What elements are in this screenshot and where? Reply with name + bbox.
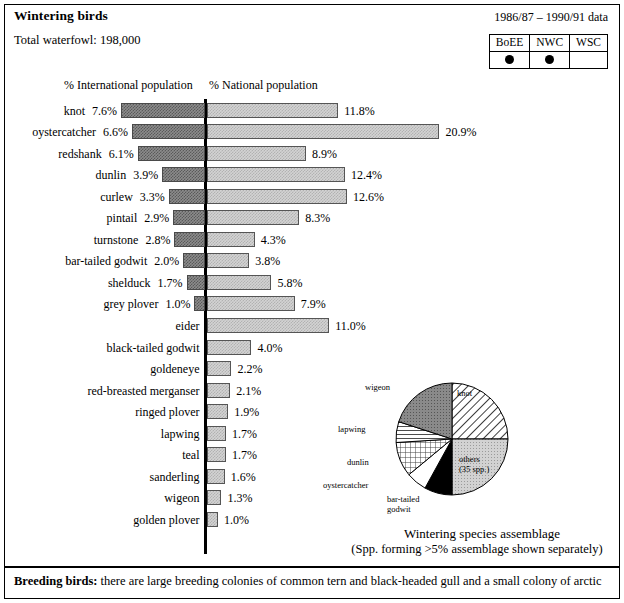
bar-international bbox=[138, 146, 206, 161]
chart-row: 2.8%turnstone4.3% bbox=[0, 229, 624, 251]
species-label: red-breasted merganser bbox=[87, 383, 199, 399]
pie-slice-label: oystercatcher bbox=[323, 480, 368, 490]
footer-note: Breeding birds: there are large breeding… bbox=[14, 574, 614, 589]
species-label: teal bbox=[182, 447, 199, 463]
species-label: lapwing bbox=[161, 426, 200, 442]
bar-international bbox=[174, 232, 205, 247]
chart-row: 3.9%dunlin12.4% bbox=[0, 164, 624, 186]
chart-row: teal1.7% bbox=[0, 444, 624, 466]
chart-row: black-tailed godwit4.0% bbox=[0, 337, 624, 359]
chart-row: ringed plover1.9% bbox=[0, 401, 624, 423]
species-label: grey plover bbox=[103, 296, 158, 312]
value-label-international: 7.6% bbox=[92, 103, 117, 119]
value-label-international: 2.0% bbox=[154, 253, 179, 269]
diverging-bar-chart: 7.6%knot11.8%6.6%oystercatcher20.9%6.1%r… bbox=[0, 0, 624, 603]
value-label-international: 3.3% bbox=[140, 189, 165, 205]
value-label-international: 6.1% bbox=[109, 146, 134, 162]
value-label-national: 12.6% bbox=[353, 189, 384, 205]
chart-row: 7.6%knot11.8% bbox=[0, 100, 624, 122]
bar-national bbox=[207, 124, 439, 139]
bar-national bbox=[207, 426, 226, 441]
pie-slice-label: dunlin bbox=[347, 457, 369, 467]
bar-international bbox=[194, 296, 205, 311]
pie-chart-subtitle: (Spp. forming >5% assemblage shown separ… bbox=[330, 542, 624, 557]
bar-national bbox=[207, 404, 228, 419]
species-label: dunlin bbox=[95, 167, 126, 183]
value-label-national: 11.0% bbox=[335, 318, 366, 334]
bar-international bbox=[187, 275, 206, 290]
bar-national bbox=[207, 361, 231, 376]
species-label: shelduck bbox=[108, 275, 151, 291]
pie-chart-title: Wintering species assemblage bbox=[340, 526, 624, 542]
bar-national bbox=[207, 469, 225, 484]
chart-row: 2.9%pintail8.3% bbox=[0, 207, 624, 229]
value-label-national: 4.3% bbox=[261, 232, 286, 248]
bar-international bbox=[169, 189, 206, 204]
bar-national bbox=[207, 146, 306, 161]
value-label-national: 8.3% bbox=[305, 210, 330, 226]
value-label-national: 12.4% bbox=[351, 167, 382, 183]
value-label-national: 1.9% bbox=[234, 404, 259, 420]
chart-row: 3.3%curlew12.6% bbox=[0, 186, 624, 208]
species-label: wigeon bbox=[164, 490, 199, 506]
species-label: goldeneye bbox=[150, 361, 199, 377]
value-label-national: 4.0% bbox=[257, 340, 282, 356]
chart-row: eider11.0% bbox=[0, 315, 624, 337]
bar-national bbox=[207, 490, 221, 505]
value-label-international: 1.0% bbox=[165, 296, 190, 312]
bar-national bbox=[207, 275, 271, 290]
species-label: golden plover bbox=[133, 512, 199, 528]
chart-row: 1.0%grey plover7.9% bbox=[0, 293, 624, 315]
bar-national bbox=[207, 103, 338, 118]
pie-chart: knotothers(35 spp.)bar-tailedgodwitoyste… bbox=[395, 382, 509, 496]
species-label: curlew bbox=[100, 189, 133, 205]
bar-national bbox=[207, 210, 299, 225]
page-root: Wintering birds 1986/87 – 1990/91 data T… bbox=[0, 0, 624, 603]
value-label-international: 2.9% bbox=[144, 210, 169, 226]
species-label: knot bbox=[64, 103, 85, 119]
species-label: oystercatcher bbox=[32, 124, 96, 140]
chart-row: 6.6%oystercatcher20.9% bbox=[0, 121, 624, 143]
bar-international bbox=[162, 167, 205, 182]
bar-international bbox=[183, 253, 205, 268]
chart-row: wigeon1.3% bbox=[0, 487, 624, 509]
chart-row: 6.1%redshank8.9% bbox=[0, 143, 624, 165]
bar-international bbox=[121, 103, 206, 118]
footer-text: there are large breeding colonies of com… bbox=[97, 574, 601, 588]
bar-national bbox=[207, 447, 226, 462]
value-label-national: 3.8% bbox=[255, 253, 280, 269]
pie-slice-label: wigeon bbox=[365, 382, 390, 392]
pie-slice-label: knot bbox=[457, 388, 472, 398]
chart-row: 2.0%bar-tailed godwit3.8% bbox=[0, 250, 624, 272]
species-label: pintail bbox=[107, 210, 138, 226]
species-label: redshank bbox=[58, 146, 101, 162]
value-label-national: 2.1% bbox=[236, 383, 261, 399]
value-label-international: 2.8% bbox=[145, 232, 170, 248]
bar-national bbox=[207, 512, 218, 527]
chart-row: 1.7%shelduck5.8% bbox=[0, 272, 624, 294]
footer-lead: Breeding birds: bbox=[14, 574, 97, 588]
value-label-national: 7.9% bbox=[301, 296, 326, 312]
bar-national bbox=[207, 340, 251, 355]
value-label-national: 2.2% bbox=[237, 361, 262, 377]
pie-slice-label: others(35 spp.) bbox=[459, 454, 489, 474]
value-label-international: 6.6% bbox=[103, 124, 128, 140]
value-label-national: 1.7% bbox=[232, 447, 257, 463]
bar-international bbox=[173, 210, 205, 225]
pie-slice-label: bar-tailedgodwit bbox=[387, 494, 419, 514]
value-label-national: 5.8% bbox=[277, 275, 302, 291]
species-label: ringed plover bbox=[135, 404, 199, 420]
species-label: bar-tailed godwit bbox=[65, 253, 147, 269]
value-label-national: 1.6% bbox=[231, 469, 256, 485]
bar-national bbox=[207, 318, 329, 333]
value-label-international: 1.7% bbox=[158, 275, 183, 291]
bar-international bbox=[132, 124, 205, 139]
value-label-national: 8.9% bbox=[312, 146, 337, 162]
value-label-national: 11.8% bbox=[344, 103, 375, 119]
species-label: eider bbox=[176, 318, 200, 334]
value-label-national: 1.3% bbox=[227, 490, 252, 506]
bar-national bbox=[207, 167, 345, 182]
value-label-national: 20.9% bbox=[445, 124, 476, 140]
value-label-international: 3.9% bbox=[133, 167, 158, 183]
bar-national bbox=[207, 232, 255, 247]
